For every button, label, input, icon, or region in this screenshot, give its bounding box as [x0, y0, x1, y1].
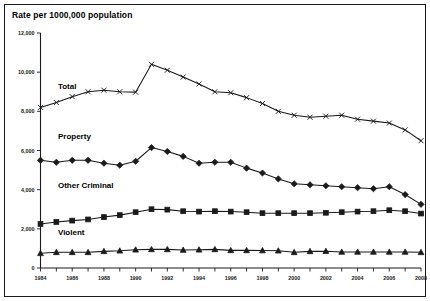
data-point-marker [307, 182, 313, 188]
data-point-marker [259, 170, 265, 176]
data-point-marker [403, 127, 408, 132]
series-property [37, 144, 424, 207]
data-point-marker [419, 211, 424, 216]
data-point-marker [308, 211, 313, 216]
x-tick-label: 1988 [98, 275, 110, 281]
series-label-total: Total [58, 82, 77, 91]
data-point-marker [355, 209, 360, 214]
data-point-marker [402, 191, 408, 197]
data-point-marker [149, 62, 154, 67]
data-point-marker [197, 209, 202, 214]
data-point-marker [181, 209, 186, 214]
y-tick-label: 10,000 [18, 69, 35, 75]
data-point-marker [53, 159, 59, 165]
data-series-group [37, 62, 424, 256]
data-point-marker [260, 101, 265, 106]
series-violent [38, 246, 424, 255]
data-point-marker [133, 210, 138, 215]
data-point-marker [354, 185, 360, 191]
y-tick-label: 8,000 [21, 108, 35, 114]
chart-plot-area: 02,0004,0006,0008,00010,00012,000 198419… [0, 0, 430, 301]
data-point-marker [228, 159, 234, 165]
x-tick-label: 1992 [161, 275, 173, 281]
x-tick-label: 1984 [35, 275, 47, 281]
x-tick-label: 2002 [320, 275, 332, 281]
data-point-marker [291, 181, 297, 187]
data-point-marker [339, 210, 344, 215]
data-point-marker [54, 220, 59, 225]
data-point-marker [418, 201, 424, 207]
data-point-marker [387, 208, 392, 213]
data-point-marker [86, 217, 91, 222]
x-tick-label: 1996 [225, 275, 237, 281]
data-point-marker [117, 162, 123, 168]
data-point-marker [386, 184, 392, 190]
x-tick-label: 2008 [415, 275, 427, 281]
x-tick-label: 1986 [66, 275, 78, 281]
data-point-marker [228, 209, 233, 214]
data-point-marker [371, 209, 376, 214]
data-point-marker [212, 159, 218, 165]
data-point-marker [102, 215, 107, 220]
data-point-marker [419, 138, 424, 143]
chart-figure: Rate per 1000,000 population 02,0004,000… [0, 0, 430, 301]
data-point-marker [38, 222, 43, 227]
y-tick-label: 12,000 [18, 30, 35, 36]
series-label-violent: Violent [58, 228, 85, 237]
data-point-marker [180, 153, 186, 159]
x-axis: 1984198619881990199219941996199820002002… [35, 268, 428, 281]
data-point-marker [275, 176, 281, 182]
data-point-marker [196, 160, 202, 166]
data-point-marker [323, 210, 328, 215]
data-point-marker [165, 68, 170, 73]
data-point-marker [70, 218, 75, 223]
x-tick-label: 2004 [352, 275, 364, 281]
series-total [38, 62, 424, 143]
series-line [41, 148, 422, 205]
data-point-marker [244, 165, 250, 171]
data-point-marker [276, 211, 281, 216]
data-point-marker [69, 157, 75, 163]
y-tick-label: 2,000 [21, 226, 35, 232]
series-label-property: Property [58, 132, 91, 141]
data-point-marker [197, 81, 202, 86]
data-point-marker [244, 210, 249, 215]
y-tick-label: 6,000 [21, 148, 35, 154]
data-point-marker [260, 211, 265, 216]
data-point-marker [339, 184, 345, 190]
data-point-marker [181, 75, 186, 80]
x-tick-label: 1994 [193, 275, 205, 281]
data-point-marker [165, 207, 170, 212]
data-point-marker [370, 186, 376, 192]
y-tick-label: 0 [32, 265, 35, 271]
data-point-marker [101, 160, 107, 166]
y-tick-label: 4,000 [21, 187, 35, 193]
series-other-criminal [38, 207, 423, 226]
data-point-marker [292, 211, 297, 216]
data-point-marker [212, 209, 217, 214]
series-line [41, 64, 422, 140]
data-point-marker [164, 148, 170, 154]
data-point-marker [85, 157, 91, 163]
data-point-marker [37, 157, 43, 163]
data-point-marker [149, 207, 154, 212]
data-point-marker [117, 213, 122, 218]
x-tick-label: 1998 [256, 275, 268, 281]
x-tick-label: 2000 [288, 275, 300, 281]
x-tick-label: 2006 [383, 275, 395, 281]
data-point-marker [323, 183, 329, 189]
series-label-other-criminal: Other Criminal [58, 181, 114, 190]
x-tick-label: 1990 [130, 275, 142, 281]
data-point-marker [403, 209, 408, 214]
y-axis: 02,0004,0006,0008,00010,00012,000 [18, 30, 41, 271]
